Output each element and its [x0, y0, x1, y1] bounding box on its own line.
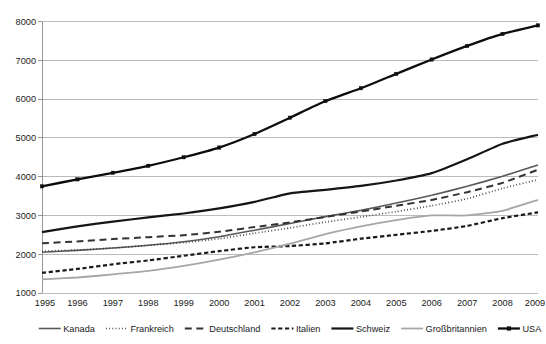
x-tick-label: 2008 — [492, 298, 512, 308]
x-tick-label: 2006 — [421, 298, 441, 308]
legend-label: Deutschland — [209, 324, 260, 334]
x-tick-label: 1997 — [103, 298, 123, 308]
series-line-schweiz — [42, 135, 538, 232]
gridlines — [42, 22, 538, 294]
legend-label: Kanada — [63, 324, 96, 334]
series-marker-usa — [465, 44, 468, 47]
x-tick-label: 2003 — [315, 298, 335, 308]
y-tick-label: 4000 — [16, 172, 36, 182]
x-tick-label: 2002 — [280, 298, 300, 308]
series-marker-usa — [324, 99, 327, 102]
legend-item-italien[interactable]: Italien — [271, 324, 320, 334]
series-marker-usa — [40, 185, 43, 188]
chart-legend: KanadaFrankreichDeutschlandItalienSchwei… — [39, 324, 542, 334]
y-tick-label: 1000 — [16, 288, 36, 298]
legend-item-schweiz[interactable]: Schweiz — [331, 324, 390, 334]
legend-label: Schweiz — [356, 324, 391, 334]
legend-label: Großbritannien — [426, 324, 487, 334]
y-tick-label: 3000 — [16, 211, 36, 221]
legend-item-deutschland[interactable]: Deutschland — [185, 324, 261, 334]
series-marker-usa — [147, 164, 150, 167]
series-marker-usa — [111, 171, 114, 174]
series-marker-usa — [182, 156, 185, 159]
x-tick-label: 2005 — [386, 298, 406, 308]
series-marker-usa — [501, 32, 504, 35]
legend-label: Frankreich — [130, 324, 173, 334]
series-marker-usa — [430, 58, 433, 61]
legend-item-frankreich[interactable]: Frankreich — [106, 324, 174, 334]
series-marker-usa — [288, 116, 291, 119]
x-tick-label: 1998 — [138, 298, 158, 308]
x-tick-label: 1996 — [67, 298, 87, 308]
x-tick-label: 2001 — [244, 298, 264, 308]
legend-label: Italien — [296, 324, 321, 334]
legend-item-gro-britannien[interactable]: Großbritannien — [401, 324, 487, 334]
legend-item-usa[interactable]: USA — [498, 324, 542, 334]
legend-marker — [507, 326, 511, 330]
series-marker-usa — [253, 132, 256, 135]
chart-canvas: 10002000300040005000600070008000 1995199… — [0, 0, 546, 344]
y-tick-label: 5000 — [16, 133, 36, 143]
y-tick-label: 8000 — [16, 17, 36, 27]
x-tick-label: 2004 — [351, 298, 371, 308]
series-marker-usa — [217, 146, 220, 149]
y-axis-tick-labels: 10002000300040005000600070008000 — [16, 17, 42, 299]
data-series — [40, 24, 539, 280]
x-tick-label: 2007 — [457, 298, 477, 308]
x-tick-label: 1995 — [35, 298, 55, 308]
x-axis-tick-labels: 1995199619971998199920002001200220032004… — [35, 298, 545, 308]
x-tick-label: 2009 — [525, 298, 545, 308]
legend-label: USA — [522, 324, 542, 334]
series-marker-usa — [395, 72, 398, 75]
series-line-usa — [42, 25, 538, 186]
series-line-deutschland — [42, 170, 538, 244]
series-marker-usa — [536, 24, 539, 27]
line-chart: 10002000300040005000600070008000 1995199… — [0, 0, 546, 344]
series-marker-usa — [359, 87, 362, 90]
x-tick-label: 1999 — [173, 298, 193, 308]
x-tick-label: 2000 — [209, 298, 229, 308]
y-tick-label: 2000 — [16, 250, 36, 260]
series-marker-usa — [76, 178, 79, 181]
y-tick-label: 6000 — [16, 94, 36, 104]
legend-item-kanada[interactable]: Kanada — [39, 324, 96, 334]
y-tick-label: 7000 — [16, 56, 36, 66]
